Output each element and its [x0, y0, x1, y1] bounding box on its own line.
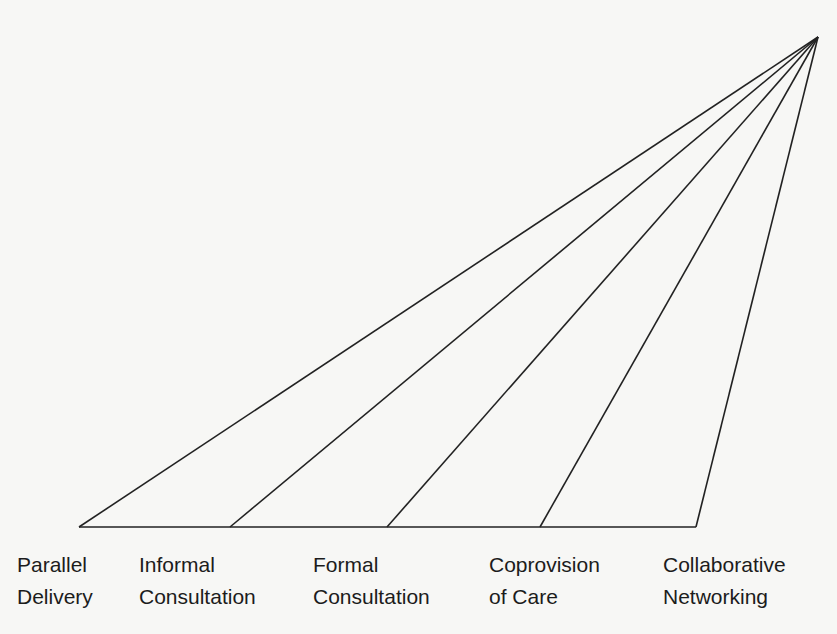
fan-ray-2: [230, 37, 818, 527]
fan-ray-5: [696, 37, 818, 527]
label-informal-consultation: Informal Consultation: [139, 549, 256, 613]
label-line-1: Informal: [139, 549, 256, 581]
label-line-2: Consultation: [139, 581, 256, 613]
fan-ray-1: [79, 37, 818, 527]
fan-ray-4: [540, 37, 818, 527]
fan-diagram: [0, 0, 837, 634]
label-line-2: Networking: [663, 581, 786, 613]
label-line-1: Coprovision: [489, 549, 600, 581]
label-line-2: Delivery: [17, 581, 93, 613]
label-line-1: Formal: [313, 549, 430, 581]
label-line-1: Collaborative: [663, 549, 786, 581]
label-coprovision-of-care: Coprovision of Care: [489, 549, 600, 613]
label-line-2: Consultation: [313, 581, 430, 613]
label-collaborative-networking: Collaborative Networking: [663, 549, 786, 613]
label-parallel-delivery: Parallel Delivery: [17, 549, 93, 613]
fan-ray-3: [387, 37, 818, 527]
label-line-1: Parallel: [17, 549, 93, 581]
label-formal-consultation: Formal Consultation: [313, 549, 430, 613]
fan-rays: [79, 37, 818, 527]
label-line-2: of Care: [489, 581, 600, 613]
